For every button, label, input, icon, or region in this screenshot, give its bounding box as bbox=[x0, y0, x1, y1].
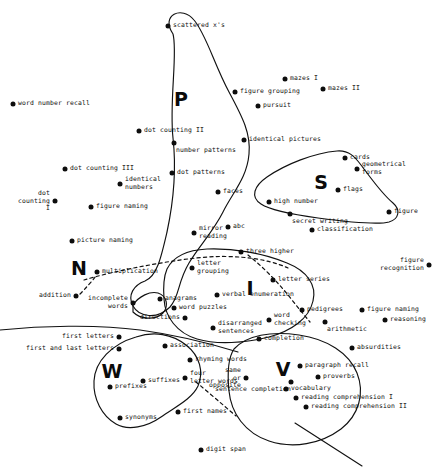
point-marker-icon bbox=[360, 308, 365, 313]
point-label: multiplication bbox=[102, 268, 158, 276]
point-marker-icon bbox=[316, 375, 321, 380]
point-label: figure naming bbox=[96, 203, 148, 211]
point-marker-icon bbox=[350, 346, 355, 351]
point-marker-icon bbox=[192, 231, 197, 236]
point-label: association bbox=[170, 342, 214, 350]
point-label: anagrams bbox=[165, 295, 197, 303]
point-label: figure grouping bbox=[240, 88, 300, 96]
point-marker-icon bbox=[53, 199, 58, 204]
point-marker-icon bbox=[166, 24, 171, 29]
point-label: disarranged sentences bbox=[218, 320, 262, 335]
point-marker-icon bbox=[321, 87, 326, 92]
point-marker-icon bbox=[284, 387, 289, 392]
point-label: first and last letters bbox=[26, 345, 114, 353]
point-marker-icon bbox=[267, 318, 272, 323]
point-label: mazes I bbox=[290, 75, 318, 83]
point-marker-icon bbox=[70, 239, 75, 244]
point-label: word checking bbox=[274, 312, 306, 327]
point-marker-icon bbox=[74, 294, 79, 299]
point-marker-icon bbox=[215, 293, 220, 298]
point-marker-icon bbox=[131, 301, 136, 306]
point-label: three higher bbox=[246, 248, 294, 256]
point-label: high number bbox=[274, 198, 318, 206]
point-marker-icon bbox=[271, 278, 276, 283]
point-label: prefixes bbox=[115, 383, 147, 391]
point-marker-icon bbox=[176, 410, 181, 415]
point-label: identical numbers bbox=[125, 176, 161, 191]
point-marker-icon bbox=[233, 90, 238, 95]
point-label: rhyming words bbox=[195, 356, 247, 364]
point-label: letter grouping bbox=[197, 260, 229, 275]
point-marker-icon bbox=[343, 156, 348, 161]
point-marker-icon bbox=[172, 141, 177, 146]
point-label: scattered x's bbox=[173, 22, 225, 30]
cluster-letter-n: N bbox=[71, 257, 87, 279]
point-label: faces bbox=[223, 188, 243, 196]
point-marker-icon bbox=[163, 344, 168, 349]
point-label: digit span bbox=[206, 446, 246, 454]
point-marker-icon bbox=[267, 200, 272, 205]
point-label: absurdities bbox=[357, 344, 401, 352]
point-label: geometrical forms bbox=[362, 161, 406, 176]
point-marker-icon bbox=[288, 212, 293, 217]
point-marker-icon bbox=[283, 77, 288, 82]
point-marker-icon bbox=[355, 167, 360, 172]
point-label: completion bbox=[264, 335, 304, 343]
point-marker-icon bbox=[244, 376, 249, 381]
point-label: addition bbox=[39, 292, 71, 300]
point-marker-icon bbox=[387, 210, 392, 215]
point-label: same or opposite bbox=[209, 367, 241, 390]
point-label: pedigrees bbox=[307, 306, 343, 314]
point-marker-icon bbox=[336, 188, 341, 193]
point-label: abc bbox=[233, 223, 245, 231]
point-label: incomplete words bbox=[88, 295, 128, 310]
point-marker-icon bbox=[298, 364, 303, 369]
point-marker-icon bbox=[323, 320, 328, 325]
point-label: classification bbox=[317, 226, 373, 234]
point-label: figure bbox=[394, 208, 418, 216]
point-label: vocabulary bbox=[291, 385, 331, 393]
point-marker-icon bbox=[427, 263, 432, 268]
point-label: paragraph recall bbox=[305, 362, 369, 370]
point-marker-icon bbox=[137, 129, 142, 134]
point-marker-icon bbox=[310, 228, 315, 233]
point-label: figure recognition bbox=[380, 257, 424, 272]
point-marker-icon bbox=[239, 250, 244, 255]
point-label: directions bbox=[140, 314, 180, 322]
factor-structure-diagram: PSNIWV scattered x'sword number recallma… bbox=[0, 0, 439, 470]
point-label: picture naming bbox=[77, 237, 133, 245]
point-marker-icon bbox=[170, 171, 175, 176]
cluster-letter-p: P bbox=[174, 88, 188, 110]
point-label: dot counting II bbox=[144, 127, 204, 135]
point-label: reading comprehension I bbox=[301, 394, 393, 402]
point-label: word puzzles bbox=[179, 304, 227, 312]
point-marker-icon bbox=[257, 337, 262, 342]
point-marker-icon bbox=[118, 182, 123, 187]
point-label: verbal enumeration bbox=[222, 291, 294, 299]
point-label: reasoning bbox=[390, 316, 426, 324]
point-marker-icon bbox=[256, 104, 261, 109]
cluster-letter-v: V bbox=[276, 358, 291, 380]
point-marker-icon bbox=[294, 396, 299, 401]
point-label: letter series bbox=[278, 276, 330, 284]
point-label: first names bbox=[183, 408, 227, 416]
point-label: synonyms bbox=[125, 414, 157, 422]
point-marker-icon bbox=[383, 318, 388, 323]
point-marker-icon bbox=[95, 270, 100, 275]
point-label: dot patterns bbox=[177, 169, 225, 177]
point-marker-icon bbox=[183, 376, 188, 381]
point-marker-icon bbox=[242, 138, 247, 143]
point-label: proverbs bbox=[323, 373, 355, 381]
point-marker-icon bbox=[63, 167, 68, 172]
point-marker-icon bbox=[108, 385, 113, 390]
point-label: dot counting I bbox=[18, 190, 50, 213]
point-marker-icon bbox=[216, 190, 221, 195]
cluster-letter-w: W bbox=[102, 360, 123, 382]
point-label: suffixes bbox=[148, 377, 180, 385]
point-label: reading comprehension II bbox=[311, 403, 407, 411]
point-marker-icon bbox=[211, 326, 216, 331]
point-marker-icon bbox=[158, 297, 163, 302]
point-marker-icon bbox=[190, 266, 195, 271]
point-label: first letters bbox=[62, 333, 114, 341]
point-label: word number recall bbox=[18, 100, 90, 108]
